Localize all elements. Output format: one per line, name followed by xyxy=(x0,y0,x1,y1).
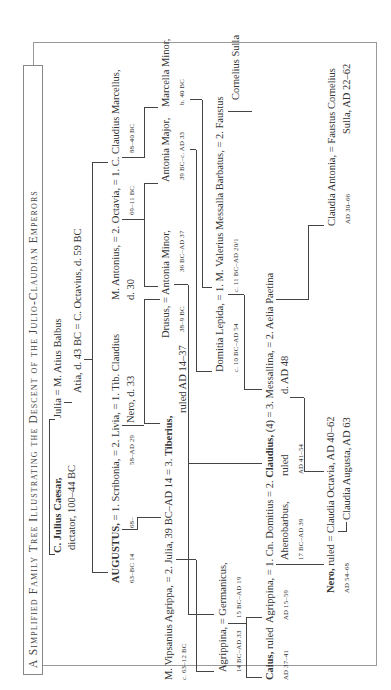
connector xyxy=(196,560,197,672)
claudius-line: Agrippina, = 1. Cn. Domitius = 2. Claudi… xyxy=(264,273,276,623)
caius-line: Caius, ruled xyxy=(264,627,276,680)
antonia-major: Antonia Major, xyxy=(160,118,172,182)
nero-line: Nero, ruled = Claudia Octavia, AD 40–62 xyxy=(325,416,337,593)
germanicus-dates: 15 BC–AD 19 xyxy=(234,577,243,618)
agrippa-line: M. Vipsanius Agrippa, = 2. Julia, 39 BC–… xyxy=(163,416,175,680)
marcellus-dates: 88–40 BC xyxy=(127,124,136,153)
connector xyxy=(144,107,158,108)
connector xyxy=(304,471,324,472)
tree-frame-left xyxy=(43,665,377,666)
faustus-sulla: Cornelius Sulla xyxy=(230,35,242,100)
nero-claudius: Nero, d. 33 xyxy=(125,376,137,423)
connector xyxy=(196,671,214,672)
connector xyxy=(190,99,202,100)
connector xyxy=(122,219,144,220)
agrippa-dates: c. 63–12 BC xyxy=(179,644,188,680)
connector xyxy=(188,463,262,464)
connector xyxy=(144,286,158,287)
julia-balbus: Julia = M. Atius Balbus xyxy=(52,318,64,418)
messallina-dates: d. AD 48 xyxy=(279,356,291,394)
connector xyxy=(49,420,50,555)
family-tree-page: A Simplified Family Tree Illustrating th… xyxy=(0,0,391,690)
ahenobarbus-dates: 17 BC–AD 39 xyxy=(296,519,305,560)
antonia-major-dates: 39 BC–c. AD 33 xyxy=(177,132,186,180)
connector xyxy=(346,522,347,532)
livia-dates: 58–AD 29 xyxy=(127,435,136,465)
connector xyxy=(308,225,324,226)
connector xyxy=(174,284,188,285)
connector xyxy=(84,359,92,360)
connector xyxy=(290,397,304,398)
connector xyxy=(244,389,262,390)
connector xyxy=(64,402,72,403)
ahenobarbus: Ahenobarbus, xyxy=(279,501,291,560)
marcella-minor-dates: b. 40 BC xyxy=(177,79,186,105)
drusus-dates: 38–9 BC xyxy=(177,306,186,332)
connector xyxy=(228,111,252,112)
connector xyxy=(144,299,160,300)
connector xyxy=(49,419,55,420)
connector xyxy=(246,618,247,678)
agrippina-germanicus: Agrippina, = Germanicus, xyxy=(217,562,229,672)
connector xyxy=(122,529,137,530)
connector xyxy=(202,287,212,288)
connector xyxy=(92,572,108,573)
connector xyxy=(202,100,203,288)
connector xyxy=(196,150,197,372)
augustus-line: AUGUSTUS, = 1. Scribonia, = 2. Livia, = … xyxy=(110,334,122,583)
connector xyxy=(144,423,160,424)
connector xyxy=(137,517,161,518)
connector xyxy=(228,623,246,624)
caesar-name: C. Julius Caesar, xyxy=(52,478,64,553)
claudia-augusta: Claudia Augusta, AD 63 xyxy=(341,417,353,520)
drusus-line: Drusus, = Antonia Minor, xyxy=(160,230,172,338)
claudia-antonia-dates: AD 30–66 xyxy=(343,194,352,224)
marcella-minor: Marcella Minor, xyxy=(160,39,172,107)
nero-dates: AD 54–68 xyxy=(342,563,351,593)
connector xyxy=(244,295,245,390)
agrippina-elder-dates: 14 BC–AD 33 xyxy=(234,631,243,672)
connector xyxy=(49,554,55,555)
caius-dates: AD 37–41 xyxy=(281,650,290,680)
connector xyxy=(144,183,158,184)
connector xyxy=(144,184,145,287)
connector xyxy=(144,300,145,424)
connector xyxy=(176,559,196,560)
connector xyxy=(246,617,262,618)
connector xyxy=(304,398,305,472)
page-title: A Simplified Family Tree Illustrating th… xyxy=(23,65,43,675)
caesar-detail: dictator, 100–44 BC xyxy=(66,465,78,550)
antonia-minor-dates: 36 BC–AD 37 xyxy=(177,231,186,272)
connector xyxy=(228,294,244,295)
atia-octavius: Atia, d. 43 BC = C. Octavius, d. 59 BC xyxy=(72,228,84,393)
connector xyxy=(308,226,309,300)
connector xyxy=(92,162,108,163)
connector xyxy=(188,285,189,615)
connector xyxy=(276,299,308,300)
antonius-dates: d. 30 xyxy=(125,279,137,300)
connector xyxy=(144,108,145,158)
scribonia-dates: 68– xyxy=(127,517,136,528)
domitia-dates: c. 10 BC–AD 54 xyxy=(231,324,240,373)
claudius-ruled: ruled xyxy=(279,454,291,476)
connector xyxy=(246,677,262,678)
connector xyxy=(196,371,212,372)
connector xyxy=(122,157,144,158)
connector xyxy=(92,163,93,573)
connector xyxy=(122,425,144,426)
sulla-dates: Sulla, AD 22–62 xyxy=(341,64,353,134)
agrippina-younger-dates: AD 15–59 xyxy=(281,590,290,620)
connector xyxy=(338,531,346,532)
connector xyxy=(137,518,138,530)
connector xyxy=(276,564,324,565)
domitia-line: Domitia Lepida, = 1. M. Valerius Messall… xyxy=(214,96,226,372)
messalla-dates: c. 11 BC–AD 20/1 xyxy=(231,238,240,292)
claudia-antonia-line: Claudia Antonia, = Faustus Cornelius xyxy=(326,68,338,226)
connector xyxy=(188,614,214,615)
augustus-dates: 63–BC 14 xyxy=(127,554,136,583)
antonius-line: M. Antonius, = 2. Octavia, = 1. C. Claud… xyxy=(110,69,122,300)
octavia-dates: 69–11 BC xyxy=(127,186,136,215)
